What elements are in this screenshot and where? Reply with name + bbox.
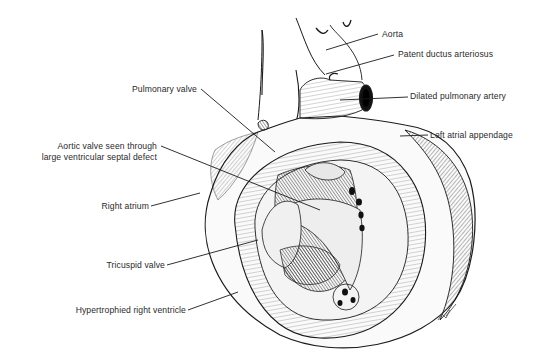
heart-diagram: Aorta Patent ductus arteriosus Dilated p… bbox=[0, 0, 540, 357]
label-hypertrophied-rv: Hypertrophied right ventricle bbox=[40, 305, 186, 315]
label-patent-ductus: Patent ductus arteriosus bbox=[398, 49, 493, 59]
label-pulmonary-valve: Pulmonary valve bbox=[125, 84, 197, 94]
label-aorta: Aorta bbox=[382, 29, 403, 39]
label-left-atrial-appendage: Left atrial appendage bbox=[430, 130, 513, 140]
label-aortic-valve-line1: Aortic valve seen through bbox=[36, 141, 157, 151]
label-aortic-valve-line2: large ventricular septal defect bbox=[20, 152, 157, 162]
opened-right-ventricle bbox=[235, 142, 426, 338]
label-right-atrium: Right atrium bbox=[80, 201, 149, 211]
label-dilated-pulmonary-artery: Dilated pulmonary artery bbox=[410, 91, 506, 101]
label-tricuspid-valve: Tricuspid valve bbox=[80, 260, 165, 270]
